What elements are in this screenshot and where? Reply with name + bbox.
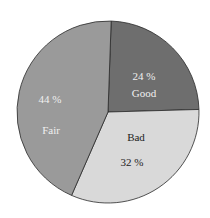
pie-chart: 24 % Good Bad 32 % 44 % Fair	[0, 0, 210, 218]
fair-pct-label: 44 %	[39, 93, 62, 105]
good-name-label: Good	[132, 87, 157, 99]
bad-name-label: Bad	[127, 131, 145, 143]
fair-name-label: Fair	[42, 124, 60, 136]
bad-pct-label: 32 %	[121, 156, 144, 168]
good-pct-label: 24 %	[133, 70, 156, 82]
